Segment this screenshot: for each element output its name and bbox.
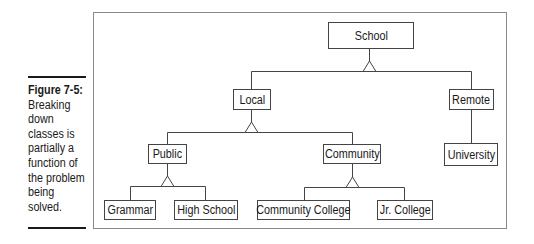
node-jr-college: Jr. College bbox=[377, 200, 433, 220]
inheritance-triangle-icon bbox=[346, 177, 359, 188]
node-community-college: Community College bbox=[257, 200, 350, 220]
inheritance-triangle-icon bbox=[245, 122, 258, 133]
node-public: Public bbox=[148, 144, 187, 164]
node-grammar: Grammar bbox=[104, 200, 156, 220]
inheritance-triangle-icon bbox=[363, 61, 376, 72]
node-university: University bbox=[444, 143, 498, 166]
inheritance-triangle-icon bbox=[161, 176, 174, 187]
node-school: School bbox=[328, 22, 414, 49]
node-remote: Remote bbox=[449, 89, 494, 110]
node-local: Local bbox=[233, 89, 271, 110]
node-community: Community bbox=[323, 144, 381, 164]
node-high-school: High School bbox=[174, 200, 238, 220]
